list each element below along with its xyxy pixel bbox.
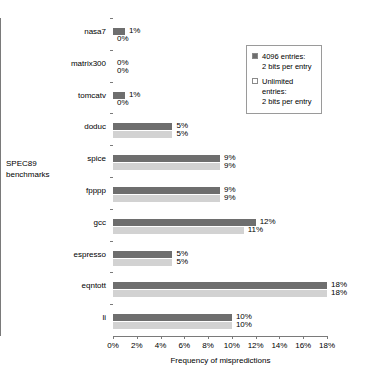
- x-axis-tick: [279, 336, 280, 339]
- y-axis-tick: [110, 18, 113, 19]
- x-axis-tick: [208, 336, 209, 339]
- bar-value-spice-series2: 9%: [224, 162, 236, 170]
- bar-value-eqntott-series2: 18%: [331, 289, 347, 297]
- bar-spice-series1: [113, 155, 220, 162]
- bar-value-matrix300-series2: 0%: [117, 67, 129, 75]
- x-axis-tick-label-18%: 18%: [312, 341, 342, 350]
- bar-value-doduc-series2: 5%: [176, 130, 188, 138]
- chart-row: spice9%9%: [113, 145, 327, 177]
- chart-row: doduc5%5%: [113, 113, 327, 145]
- category-label-doduc: doduc: [84, 122, 106, 131]
- bar-espresso-series1: [113, 251, 172, 258]
- category-label-nasa7: nasa7: [84, 27, 106, 36]
- legend-label-4096-entries: 4096 entries: 2 bits per entry: [262, 52, 312, 72]
- x-axis-tick: [232, 336, 233, 339]
- bar-spice-series2: [113, 163, 220, 170]
- bar-gcc-series1: [113, 219, 256, 226]
- chart-row: fpppp9%9%: [113, 177, 327, 209]
- x-axis-tick: [256, 336, 257, 339]
- y-axis-tick: [110, 82, 113, 83]
- bar-value-fpppp-series2: 9%: [224, 194, 236, 202]
- misprediction-frequency-bar-chart: SPEC89 benchmarks nasa71%0%matrix3000%0%…: [0, 0, 384, 382]
- chart-row: espresso5%5%: [113, 241, 327, 273]
- category-label-spice: spice: [87, 154, 106, 163]
- bar-value-gcc-series2: 11%: [248, 226, 263, 234]
- legend-item-4096-entries: 4096 entries: 2 bits per entry: [252, 52, 316, 72]
- y-axis-line: [0, 18, 1, 336]
- category-label-tomcatv: tomcatv: [78, 91, 106, 100]
- category-label-li: li: [102, 313, 106, 322]
- legend-swatch-dark-icon: [252, 53, 258, 59]
- chart-row: li10%10%: [113, 304, 327, 336]
- legend-label-unlimited-entries: Unlimited entries: 2 bits per entry: [262, 77, 316, 107]
- x-axis-tick: [184, 336, 185, 339]
- bar-value-espresso-series2: 5%: [176, 258, 188, 266]
- bar-value-nasa7-series2: 0%: [117, 35, 129, 43]
- category-label-gcc: gcc: [94, 218, 106, 227]
- bar-doduc-series2: [113, 131, 172, 138]
- chart-row: eqntott18%18%: [113, 272, 327, 304]
- x-axis-tick: [303, 336, 304, 339]
- chart-legend: 4096 entries: 2 bits per entry Unlimited…: [246, 45, 322, 114]
- x-axis-tick: [161, 336, 162, 339]
- x-axis-tick: [113, 336, 114, 339]
- y-axis-tick: [110, 113, 113, 114]
- x-axis-tick: [137, 336, 138, 339]
- category-label-eqntott: eqntott: [82, 281, 106, 290]
- bar-li-series2: [113, 322, 232, 329]
- category-label-fpppp: fpppp: [86, 186, 106, 195]
- chart-row: gcc12%11%: [113, 209, 327, 241]
- legend-swatch-light-icon: [252, 78, 258, 84]
- bar-fpppp-series1: [113, 187, 220, 194]
- bar-eqntott-series1: [113, 282, 327, 289]
- x-axis-tick: [327, 336, 328, 339]
- y-axis-tick: [110, 50, 113, 51]
- x-axis-line: [113, 336, 328, 337]
- bar-eqntott-series2: [113, 290, 327, 297]
- bar-value-tomcatv-series2: 0%: [117, 99, 129, 107]
- bar-li-series1: [113, 314, 232, 321]
- y-axis-title: SPEC89 benchmarks: [6, 158, 76, 180]
- y-axis-tick: [110, 145, 113, 146]
- bar-doduc-series1: [113, 123, 172, 130]
- bar-value-li-series2: 10%: [236, 321, 252, 329]
- legend-item-unlimited-entries: Unlimited entries: 2 bits per entry: [252, 77, 316, 107]
- bar-espresso-series2: [113, 259, 172, 266]
- category-label-espresso: espresso: [74, 250, 106, 259]
- bar-value-nasa7-series1: 1%: [129, 27, 141, 35]
- y-axis-tick: [110, 272, 113, 273]
- y-axis-tick: [110, 209, 113, 210]
- x-axis-title: Frequency of mispredictions: [113, 356, 328, 365]
- bar-fpppp-series2: [113, 195, 220, 202]
- y-axis-tick: [110, 177, 113, 178]
- category-label-matrix300: matrix300: [71, 59, 106, 68]
- bar-gcc-series2: [113, 227, 244, 234]
- y-axis-tick: [110, 304, 113, 305]
- y-axis-tick: [110, 241, 113, 242]
- bar-value-tomcatv-series1: 1%: [129, 91, 141, 99]
